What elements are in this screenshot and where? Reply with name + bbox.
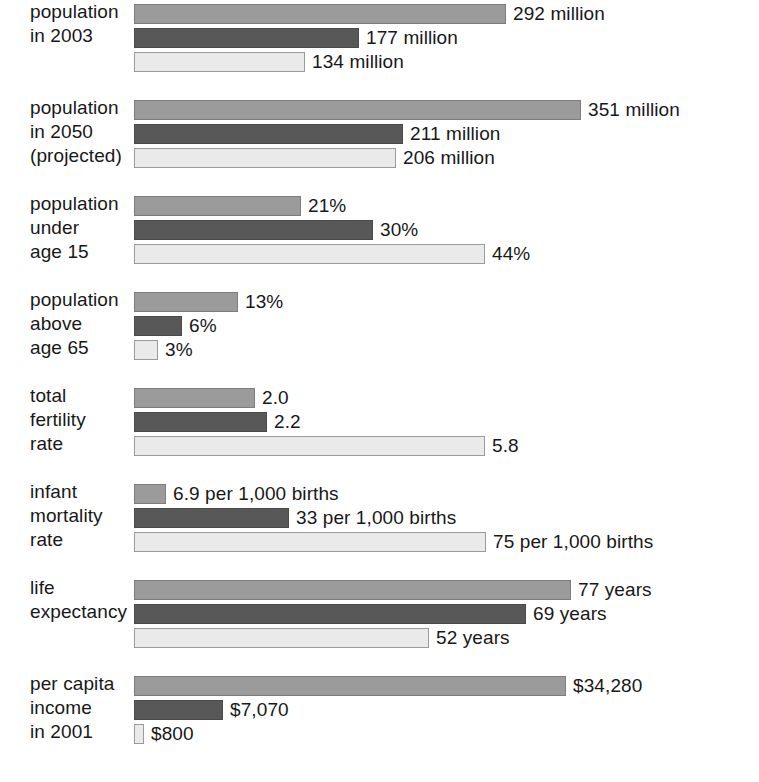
bar-value-label: 6% <box>189 316 217 336</box>
bar-series-1 <box>134 388 255 408</box>
group-label: population in 2050 (projected) <box>0 96 134 168</box>
bar-group: life expectancy77 years69 years52 years <box>0 576 759 650</box>
bar-series-2 <box>134 124 403 144</box>
bar-series-1 <box>134 292 238 312</box>
bar-value-label: 77 years <box>578 580 652 600</box>
bar-row: 6% <box>134 314 759 338</box>
bar-value-label: 2.2 <box>274 412 301 432</box>
bar-value-label: 13% <box>245 292 283 312</box>
group-label: population under age 15 <box>0 192 134 264</box>
bar-row: 77 years <box>134 578 759 602</box>
bar-value-label: 3% <box>165 340 193 360</box>
group-label: life expectancy <box>0 576 134 624</box>
bar-row: 52 years <box>134 626 759 650</box>
group-label: per capita income in 2001 <box>0 672 134 744</box>
bar-stack: 13%6%3% <box>134 288 759 362</box>
bar-series-2 <box>134 220 373 240</box>
bar-series-3 <box>134 340 158 360</box>
bar-row: 5.8 <box>134 434 759 458</box>
bar-stack: 292 million177 million134 million <box>134 0 759 74</box>
bar-row: 13% <box>134 290 759 314</box>
bar-series-2 <box>134 604 526 624</box>
bar-row: 351 million <box>134 98 759 122</box>
bar-row: 30% <box>134 218 759 242</box>
bar-row: 292 million <box>134 2 759 26</box>
bar-value-label: $34,280 <box>573 676 642 696</box>
bar-series-1 <box>134 196 301 216</box>
bar-row: 206 million <box>134 146 759 170</box>
bar-group: population in 2050 (projected)351 millio… <box>0 96 759 170</box>
bar-value-label: 211 million <box>410 124 501 144</box>
bar-series-2 <box>134 508 289 528</box>
group-label: infant mortality rate <box>0 480 134 552</box>
bar-series-2 <box>134 28 359 48</box>
bar-stack: 21%30%44% <box>134 192 759 266</box>
bar-group: population in 2003292 million177 million… <box>0 0 759 74</box>
bar-series-3 <box>134 532 486 552</box>
bar-value-label: 134 million <box>312 52 404 72</box>
bar-series-3 <box>134 244 485 264</box>
bar-value-label: 206 million <box>403 148 495 168</box>
bar-row: 69 years <box>134 602 759 626</box>
bar-stack: 77 years69 years52 years <box>134 576 759 650</box>
bar-series-3 <box>134 628 429 648</box>
bar-value-label: 21% <box>308 196 346 216</box>
group-label: total fertility rate <box>0 384 134 456</box>
bar-value-label: 52 years <box>436 628 510 648</box>
bar-row: 134 million <box>134 50 759 74</box>
bar-stack: 351 million211 million206 million <box>134 96 759 170</box>
bar-stack: 6.9 per 1,000 births33 per 1,000 births7… <box>134 480 759 554</box>
grouped-bar-chart: population in 2003292 million177 million… <box>0 0 759 782</box>
bar-value-label: 292 million <box>513 4 605 24</box>
bar-series-1 <box>134 484 166 504</box>
bar-value-label: 30% <box>380 220 418 240</box>
bar-series-3 <box>134 436 485 456</box>
bar-series-1 <box>134 4 506 24</box>
bar-row: 177 million <box>134 26 759 50</box>
bar-value-label: 6.9 per 1,000 births <box>173 484 339 504</box>
bar-value-label: 5.8 <box>492 436 519 456</box>
bar-value-label: $7,070 <box>230 700 289 720</box>
bar-series-1 <box>134 100 581 120</box>
bar-value-label: $800 <box>151 724 194 744</box>
bar-series-3 <box>134 52 305 72</box>
bar-value-label: 33 per 1,000 births <box>296 508 456 528</box>
bar-group: total fertility rate2.02.25.8 <box>0 384 759 458</box>
bar-row: 2.2 <box>134 410 759 434</box>
bar-row: 6.9 per 1,000 births <box>134 482 759 506</box>
bar-stack: $34,280$7,070$800 <box>134 672 759 746</box>
bar-series-1 <box>134 676 566 696</box>
bar-row: 211 million <box>134 122 759 146</box>
bar-value-label: 44% <box>492 244 530 264</box>
bar-value-label: 177 million <box>366 28 458 48</box>
bar-group: per capita income in 2001$34,280$7,070$8… <box>0 672 759 746</box>
bar-group: population above age 6513%6%3% <box>0 288 759 362</box>
bar-series-3 <box>134 724 144 744</box>
bar-group: population under age 1521%30%44% <box>0 192 759 266</box>
bar-series-3 <box>134 148 396 168</box>
bar-value-label: 75 per 1,000 births <box>493 532 653 552</box>
bar-value-label: 69 years <box>533 604 607 624</box>
bar-value-label: 2.0 <box>262 388 289 408</box>
bar-series-2 <box>134 412 267 432</box>
bar-row: 33 per 1,000 births <box>134 506 759 530</box>
bar-series-2 <box>134 316 182 336</box>
bar-row: 2.0 <box>134 386 759 410</box>
bar-row: $800 <box>134 722 759 746</box>
bar-row: 75 per 1,000 births <box>134 530 759 554</box>
bar-series-2 <box>134 700 223 720</box>
bar-row: 3% <box>134 338 759 362</box>
group-label: population above age 65 <box>0 288 134 360</box>
bar-row: $7,070 <box>134 698 759 722</box>
group-label: population in 2003 <box>0 0 134 48</box>
bar-series-1 <box>134 580 571 600</box>
bar-stack: 2.02.25.8 <box>134 384 759 458</box>
bar-group: infant mortality rate6.9 per 1,000 birth… <box>0 480 759 554</box>
bar-row: $34,280 <box>134 674 759 698</box>
bar-value-label: 351 million <box>588 100 680 120</box>
bar-row: 21% <box>134 194 759 218</box>
bar-row: 44% <box>134 242 759 266</box>
